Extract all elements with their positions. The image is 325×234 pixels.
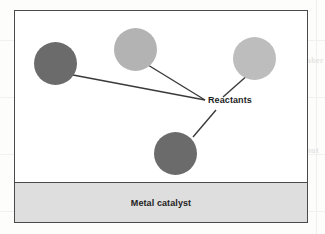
reactants-label: Reactants	[208, 95, 252, 105]
particle-lower-middle	[154, 132, 197, 175]
particle-top-middle	[114, 28, 157, 71]
leader-from-lower-middle	[193, 110, 216, 137]
particle-upper-left	[34, 42, 77, 85]
page-edge-line	[316, 0, 317, 234]
figure-frame: Reactants Metal catalyst	[14, 10, 308, 223]
particle-upper-right	[233, 37, 276, 80]
figure-canvas: Reactants Metal catalyst	[15, 11, 307, 222]
metal-catalyst-label: Metal catalyst	[131, 198, 191, 208]
scanned-page-background: k number mmo T qmut Reactants Metal cata…	[0, 0, 325, 234]
metal-catalyst-surface: Metal catalyst	[15, 182, 307, 222]
